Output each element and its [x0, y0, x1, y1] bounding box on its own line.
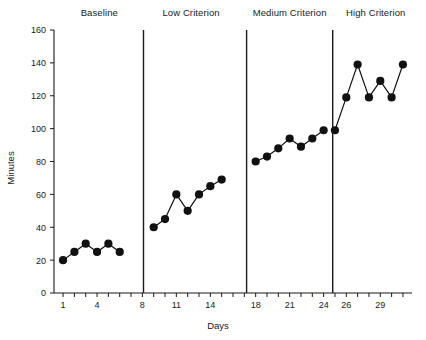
data-point — [376, 77, 384, 85]
data-point — [59, 256, 67, 264]
phase-label-baseline: Baseline — [81, 7, 118, 18]
x-tick-label: 29 — [375, 300, 385, 310]
data-point — [263, 152, 271, 160]
x-tick-label: 18 — [251, 300, 261, 310]
data-point — [206, 182, 214, 190]
data-point — [252, 157, 260, 165]
x-tick-label: 4 — [95, 300, 100, 310]
data-point — [365, 93, 373, 101]
y-tick-label: 20 — [36, 256, 46, 266]
y-tick-label: 60 — [36, 190, 46, 200]
y-axis-title: Minutes — [5, 151, 16, 185]
changing-criterion-line-chart: BaselineLow CriterionMedium CriterionHig… — [0, 0, 426, 340]
data-point — [354, 60, 362, 68]
data-point — [82, 240, 90, 248]
y-tick-label: 160 — [31, 25, 46, 35]
x-tick-label: 21 — [285, 300, 295, 310]
data-point — [161, 215, 169, 223]
data-point — [297, 143, 305, 151]
x-tick-label: 8 — [140, 300, 145, 310]
data-point — [116, 248, 124, 256]
data-point — [388, 93, 396, 101]
x-axis-title: Days — [207, 320, 229, 331]
y-tick-label: 80 — [36, 157, 46, 167]
data-point — [195, 190, 203, 198]
chart-container: BaselineLow CriterionMedium CriterionHig… — [0, 0, 426, 340]
phase-label-medium-criterion: Medium Criterion — [253, 7, 327, 18]
y-tick-label: 140 — [31, 58, 46, 68]
data-point — [218, 175, 226, 183]
data-point — [93, 248, 101, 256]
data-point — [308, 134, 316, 142]
data-point — [184, 207, 192, 215]
y-tick-label: 40 — [36, 223, 46, 233]
y-tick-label: 120 — [31, 91, 46, 101]
data-point — [70, 248, 78, 256]
data-point — [104, 240, 112, 248]
data-point — [172, 190, 180, 198]
x-tick-label: 14 — [205, 300, 215, 310]
data-point — [286, 134, 294, 142]
data-point — [274, 144, 282, 152]
chart-background — [0, 0, 426, 340]
data-point — [150, 223, 158, 231]
data-point — [342, 93, 350, 101]
phase-label-low-criterion: Low Criterion — [162, 7, 219, 18]
y-tick-label: 100 — [31, 124, 46, 134]
x-tick-label: 24 — [319, 300, 329, 310]
y-tick-label: 0 — [41, 288, 46, 298]
data-point — [320, 126, 328, 134]
x-tick-label: 1 — [61, 300, 66, 310]
data-point — [331, 126, 339, 134]
phase-label-high-criterion: High Criterion — [346, 7, 405, 18]
x-tick-label: 11 — [172, 300, 181, 310]
data-point — [399, 60, 407, 68]
x-tick-label: 26 — [341, 300, 351, 310]
